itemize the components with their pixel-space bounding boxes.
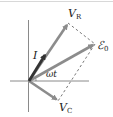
phasor-diagram-graphic: [0, 0, 113, 117]
phasor-diagram: VR ℰ0 I ωt VC: [0, 0, 113, 117]
dashed-emf-to-vc: [58, 44, 95, 101]
vr-label: VR: [68, 8, 81, 21]
emf-label: ℰ0: [97, 40, 108, 53]
angle-label: ωt: [46, 70, 57, 79]
vc-phasor-arrow: [29, 81, 57, 100]
dashed-vr-to-emf: [68, 23, 95, 44]
vc-label: VC: [59, 102, 72, 115]
current-label: I: [33, 50, 37, 61]
